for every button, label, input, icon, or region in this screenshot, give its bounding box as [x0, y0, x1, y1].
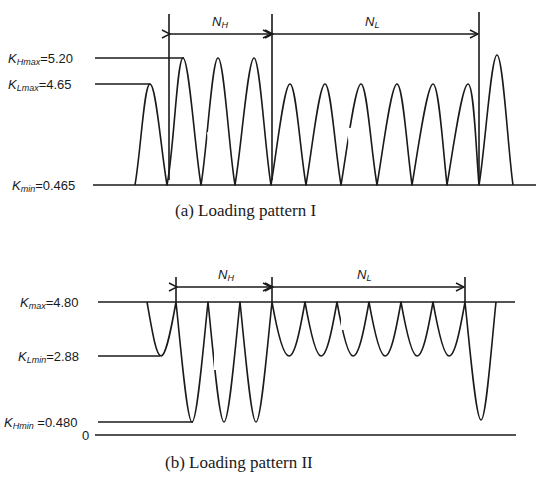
n-h-label: NH: [212, 14, 228, 30]
pattern-1-caption: (a) Loading pattern I: [175, 201, 316, 220]
pattern-2-caption: (b) Loading pattern II: [165, 453, 313, 472]
k-lmax-label: KLmax=4.65: [8, 77, 72, 93]
n-l-label: NL: [365, 14, 379, 30]
pattern-2-waveform: [147, 302, 496, 422]
k-max-label: Kmax=4.80: [20, 295, 79, 311]
k-hmax-label: KHmax=5.20: [8, 51, 73, 67]
loading-patterns-diagram: KHmax=5.20 KLmax=4.65 Kmin=0.465 NH NL (…: [0, 0, 540, 482]
pattern-2-diagram: Kmax=4.80 KLmin=2.88 KHmin =0.480 0 NH N…: [4, 267, 516, 472]
k-hmin-label: KHmin =0.480: [4, 415, 77, 431]
k-min-label: Kmin=0.465: [12, 178, 75, 194]
zero-label: 0: [82, 428, 89, 443]
pattern-1-waveform: [135, 55, 513, 185]
pattern-1-diagram: KHmax=5.20 KLmax=4.65 Kmin=0.465 NH NL (…: [8, 12, 536, 220]
k-lmin-label: KLmin=2.88: [18, 349, 79, 365]
n-h-label-2: NH: [218, 267, 234, 283]
n-l-label-2: NL: [357, 267, 371, 283]
